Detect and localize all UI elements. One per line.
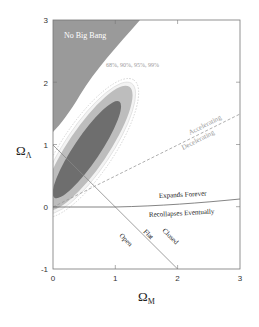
contours-label: 68%, 90%, 95%, 99%	[106, 62, 159, 68]
open-label: Open	[118, 232, 135, 249]
x-tick-3: 3	[238, 274, 243, 283]
expands-forever-label: Expands Forever	[159, 189, 208, 200]
cosmology-chart: 0 1 2 3 -1 0 1 2 3 ΩΛ ΩM No Big Bang 68%…	[0, 0, 259, 327]
x-tick-2: 2	[175, 274, 180, 283]
y-axis-label: ΩΛ	[16, 143, 32, 160]
closed-label: Closed	[161, 227, 181, 247]
y-tick-3: 3	[44, 16, 49, 25]
confidence-contours	[21, 65, 156, 230]
y-tick-2: 2	[44, 79, 49, 88]
x-tick-0: 0	[51, 274, 56, 283]
y-tick-0: 0	[44, 203, 49, 212]
x-tick-1: 1	[113, 274, 118, 283]
flat-label: Flat	[142, 228, 155, 241]
expansion-boundary-line	[53, 199, 240, 207]
x-axis-label: ΩM	[138, 289, 155, 306]
recollapses-label: Recollapses Eventually	[149, 208, 215, 219]
y-tick-neg1: -1	[41, 265, 49, 274]
y-tick-1: 1	[44, 141, 49, 150]
no-big-bang-label: No Big Bang	[64, 31, 106, 40]
